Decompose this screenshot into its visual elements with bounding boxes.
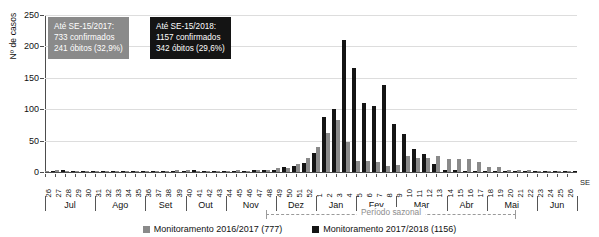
- week-tick-mark: [286, 174, 287, 177]
- bar-group: [336, 15, 346, 172]
- bar-2016-2017: [175, 170, 179, 172]
- week-tick-label: 44: [226, 190, 234, 198]
- bar-group: [457, 15, 467, 172]
- bar-2016-2017: [276, 168, 280, 172]
- bar-group: [567, 15, 577, 172]
- week-tick-label: 50: [286, 190, 294, 198]
- y-tick-label: 50: [29, 136, 39, 145]
- bar-2016-2017: [186, 170, 190, 172]
- seasonal-period-end-cap: [515, 210, 516, 219]
- seasonal-period-bracket: Período sazonal: [266, 209, 516, 221]
- legend-label: Monitoramento 2017/2018 (1156): [323, 224, 456, 234]
- week-tick-label: 29: [76, 190, 84, 198]
- week-tick-label: 39: [176, 190, 184, 198]
- bar-group: [426, 15, 436, 172]
- bar-group: [537, 15, 547, 172]
- annotation-2018-line3: 342 óbitos (29,6%): [156, 43, 225, 54]
- week-tick-label: 12: [427, 190, 435, 198]
- y-axis-ticks: 050100150200250: [0, 0, 45, 237]
- week-tick-mark: [557, 174, 558, 177]
- week-tick-label: 26: [567, 190, 575, 198]
- week-tick-label: 16: [467, 190, 475, 198]
- bar-group: [406, 15, 416, 172]
- week-tick-label: 25: [557, 190, 565, 198]
- week-tick-mark: [75, 174, 76, 177]
- annotation-box-2018: Até SE-15/2018: 1157 confirmados 342 óbi…: [150, 17, 231, 59]
- month-separator: [95, 196, 96, 211]
- week-tick-label: 48: [266, 190, 274, 198]
- week-tick-mark: [567, 174, 568, 177]
- influenza-bar-chart: Nº de casos 050100150200250 Até SE-15/20…: [0, 0, 599, 237]
- y-tick-label: 200: [24, 42, 39, 51]
- x-axis-unit-label: SE: [580, 178, 590, 187]
- bar-2016-2017: [105, 171, 109, 172]
- week-tick-mark: [396, 174, 397, 177]
- week-tick-label: 47: [256, 190, 264, 198]
- month-separator: [45, 196, 46, 211]
- bar-2016-2017: [477, 162, 481, 172]
- week-tick-label: 28: [66, 190, 74, 198]
- bar-2016-2017: [155, 171, 159, 172]
- week-tick-label: 37: [156, 190, 164, 198]
- bar-2016-2017: [226, 171, 230, 172]
- week-tick-label: 43: [216, 190, 224, 198]
- bar-group: [376, 15, 386, 172]
- bar-2016-2017: [356, 161, 360, 172]
- week-tick-mark: [547, 174, 548, 177]
- month-label-ago: Ago: [95, 198, 145, 212]
- week-tick-mark: [376, 174, 377, 177]
- week-tick-label: 24: [547, 190, 555, 198]
- y-tick-label: 150: [24, 73, 39, 82]
- week-tick-mark: [366, 174, 367, 177]
- week-tick-label: 36: [146, 190, 154, 198]
- week-tick-mark: [416, 174, 417, 177]
- week-tick-mark: [236, 174, 237, 177]
- week-tick-mark: [336, 174, 337, 177]
- week-tick-mark: [316, 174, 317, 177]
- legend-item-2016-2017[interactable]: Monitoramento 2016/2017 (777): [143, 224, 283, 234]
- bar-2016-2017: [336, 120, 340, 172]
- bar-group: [547, 15, 557, 172]
- week-tick-mark: [256, 174, 257, 177]
- week-tick-label: 30: [86, 190, 94, 198]
- annotation-2017-line3: 241 óbitos (32,9%): [54, 43, 123, 54]
- week-tick-mark: [356, 174, 357, 177]
- week-tick-label: 15: [457, 190, 465, 198]
- bar-2016-2017: [436, 156, 440, 172]
- bar-2016-2017: [75, 171, 79, 172]
- legend-item-2017-2018[interactable]: Monitoramento 2017/2018 (1156): [312, 224, 456, 234]
- bar-2016-2017: [145, 171, 149, 172]
- week-tick-mark: [487, 174, 488, 177]
- week-tick-mark: [326, 174, 327, 177]
- week-tick-label: 41: [196, 190, 204, 198]
- week-tick-mark: [447, 174, 448, 177]
- bar-2016-2017: [266, 170, 270, 173]
- bar-2016-2017: [115, 171, 119, 172]
- week-tick-mark: [95, 174, 96, 177]
- week-tick-label: 11: [417, 190, 425, 198]
- week-tick-mark: [206, 174, 207, 177]
- bar-group: [507, 15, 517, 172]
- week-tick-mark: [165, 174, 166, 177]
- bar-2016-2017: [366, 161, 370, 172]
- bar-group: [396, 15, 406, 172]
- legend-swatch-icon: [312, 226, 319, 233]
- bar-group: [557, 15, 567, 172]
- week-tick-mark: [386, 174, 387, 177]
- bar-group: [296, 15, 306, 172]
- bar-group: [256, 15, 266, 172]
- bar-group: [135, 15, 145, 172]
- legend-swatch-icon: [143, 226, 150, 233]
- week-tick-mark: [115, 174, 116, 177]
- y-tick-mark: [40, 141, 44, 142]
- bar-group: [346, 15, 356, 172]
- week-tick-mark: [467, 174, 468, 177]
- bar-2016-2017: [216, 171, 220, 172]
- week-tick-mark: [85, 174, 86, 177]
- week-tick-label: 27: [55, 190, 63, 198]
- bar-2016-2017: [567, 171, 571, 172]
- week-tick-mark: [45, 174, 46, 177]
- week-tick-label: 35: [136, 190, 144, 198]
- bar-group: [276, 15, 286, 172]
- bar-group: [286, 15, 296, 172]
